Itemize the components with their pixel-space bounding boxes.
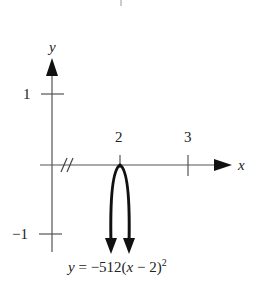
y-tick-label-neg1: −1 [12,226,28,242]
parabola-graph: y 1 −1 x 2 3 y = −512(x − 2)2 [0,0,263,297]
y-axis-label: y [47,39,56,55]
y-axis-arrow-icon [46,58,58,76]
y-axis [46,58,58,252]
x-tick-label-2: 2 [115,129,123,145]
x-axis-arrow-icon [214,159,232,171]
curve-arrow-right-icon [123,238,135,254]
x-axis [40,158,232,172]
equation-label: y = −512(x − 2)2 [66,257,167,276]
y-tick-label-1: 1 [23,86,31,102]
x-tick-label-3: 3 [184,129,192,145]
curve-arrow-left-icon [105,238,117,254]
x-axis-label: x [237,157,245,173]
parabola-curve [105,165,135,254]
